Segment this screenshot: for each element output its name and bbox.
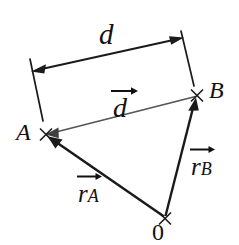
vector-label-rb-base: r: [191, 153, 201, 180]
point-label-b: B: [209, 78, 224, 102]
vector-label-ra-subscript: A: [88, 186, 99, 206]
point-marker-b: [191, 90, 203, 102]
vector-ra-group: [48, 136, 165, 216]
vector-label-rb-text: rB: [191, 154, 212, 179]
dimension-extension-line-right: [181, 31, 194, 86]
vector-label-ra-text: rA: [78, 181, 99, 206]
vector-label-d-text: d: [113, 94, 127, 122]
vector-ra-shaft: [56, 142, 164, 217]
dimension-arrowhead-right-icon: [169, 36, 184, 45]
vector-rb-shaft: [166, 108, 194, 216]
dimension-label-d: d: [99, 20, 114, 49]
point-label-origin: 0: [152, 220, 164, 244]
vector-label-rb-subscript: B: [201, 159, 212, 179]
vector-label-ra-base: r: [78, 180, 88, 207]
vector-diagram: d A B 0 d rA rB: [0, 0, 239, 245]
point-label-a: A: [16, 120, 31, 144]
